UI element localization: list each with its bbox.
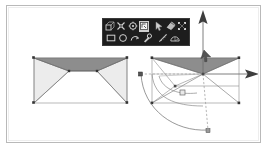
rectangle-tool-icon[interactable] — [105, 33, 116, 44]
arc-tool-icon[interactable] — [129, 33, 140, 44]
viewport-frame — [6, 5, 261, 143]
vertex-marker[interactable] — [174, 85, 177, 88]
vertex-marker[interactable] — [126, 56, 129, 59]
right-solid-edge — [203, 74, 239, 103]
measure-tool-icon[interactable] — [157, 33, 168, 44]
right-angle-marker — [180, 90, 185, 95]
right-solid-edge — [175, 74, 203, 86]
gizmo-origin-point[interactable] — [202, 73, 205, 76]
vertex-marker[interactable] — [68, 70, 70, 72]
circle-tool-icon[interactable] — [117, 33, 128, 44]
rotate-gizmo-icon[interactable] — [128, 21, 138, 32]
vertex-marker[interactable] — [96, 70, 98, 72]
vertex-marker[interactable] — [238, 102, 241, 105]
toolbar-row-secondary — [105, 32, 187, 44]
gizmo-vertical-guide — [203, 74, 208, 130]
cursor-arrow-icon[interactable] — [154, 21, 164, 32]
vertex-marker[interactable] — [32, 101, 35, 104]
vertex-marker[interactable] — [151, 56, 154, 59]
paint-material-icon[interactable] — [165, 21, 175, 32]
vertex-marker[interactable] — [126, 101, 129, 104]
snap-vertex-icon[interactable] — [116, 21, 126, 32]
app-root — [0, 0, 269, 149]
protractor-icon[interactable] — [169, 33, 180, 44]
toolbar-row-primary — [105, 20, 187, 32]
toolbar-separator — [153, 33, 156, 43]
vertex-marker[interactable] — [238, 56, 241, 59]
bottom-guide-endpoint-marker[interactable] — [206, 129, 210, 133]
left-solid — [32, 56, 128, 104]
eyedropper-icon[interactable] — [141, 33, 152, 44]
toolbar-separator — [150, 21, 153, 31]
vertex-marker[interactable] — [32, 56, 35, 59]
floating-modeling-toolbar[interactable] — [102, 18, 190, 46]
extrude-face-icon[interactable] — [105, 21, 115, 32]
scale-gizmo-icon[interactable] — [177, 21, 187, 32]
move-gizmo-icon[interactable] — [139, 21, 149, 32]
left-guide-endpoint-marker[interactable] — [138, 72, 142, 76]
right-solid-edge — [152, 86, 175, 103]
